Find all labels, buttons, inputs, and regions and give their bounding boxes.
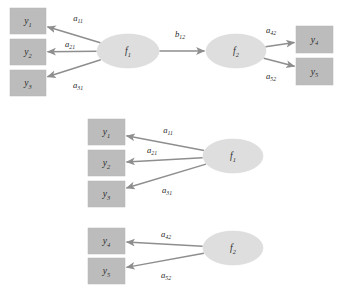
path-arrow-f2-y4 (266, 42, 295, 46)
path-coefficient-label-f1-y2: a21 (65, 39, 75, 50)
path-coefficient-label-f1b-y1b: a11 (163, 125, 173, 136)
path-arrow-f1-y3 (47, 60, 100, 77)
path-arrow-f1b-y2b (126, 158, 202, 162)
path-coefficient-label-f2b-y5b: a52 (161, 270, 171, 281)
shapes-layer (10, 8, 333, 284)
path-diagram-figure: y1y2y3y4y5f1f2a11a21a31b12a42a52y1y2y3f1… (0, 0, 340, 291)
path-arrow-f2b-y5b (126, 253, 203, 267)
path-arrow-f1-y1 (47, 27, 100, 43)
path-coefficient-label-f2-y4: a42 (266, 25, 276, 36)
path-arrow-f1b-y1b (126, 136, 204, 151)
path-coefficient-label-f2-y5: a52 (266, 71, 276, 82)
path-coefficient-label-f1b-y2b: a21 (147, 145, 157, 156)
path-coefficient-label-f1-y3: a31 (73, 80, 83, 91)
path-arrow-f2b-y4b (126, 242, 202, 246)
diagram-canvas: y1y2y3y4y5f1f2a11a21a31b12a42a52y1y2y3f1… (0, 0, 340, 291)
path-coefficient-label-f1-f2: b12 (175, 29, 185, 40)
path-arrow-f2-y5 (264, 58, 295, 66)
path-coefficient-label-f1-y1: a11 (73, 13, 83, 24)
path-coefficient-label-f1b-y3b: a31 (162, 185, 172, 196)
labels-layer: y1y2y3y4y5f1f2a11a21a31b12a42a52y1y2y3f1… (23, 13, 319, 281)
path-coefficient-label-f2b-y4b: a42 (161, 229, 171, 240)
